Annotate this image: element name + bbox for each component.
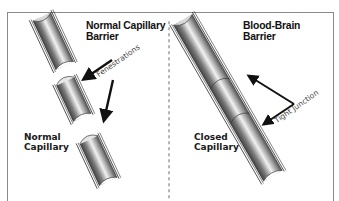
- closed-capillary-label: Closed Capillary: [194, 132, 239, 152]
- bbb-title: Blood-Brain Barrier: [243, 20, 300, 42]
- capillary-segment-3: [75, 131, 121, 189]
- normal-capillary-label-line2: Capillary: [24, 142, 69, 152]
- normal-barrier-title-line2: Barrier: [86, 31, 165, 42]
- diagram-canvas: Normal Capillary Barrier Blood-Brain Bar…: [0, 0, 339, 201]
- normal-capillary-label: Normal Capillary: [24, 132, 69, 152]
- tight-junction-arrow-1: [249, 76, 294, 104]
- capillary-segment-2: [52, 72, 95, 125]
- closed-capillary-label-line2: Capillary: [194, 142, 239, 152]
- fenestration-arrow-2: [104, 80, 113, 120]
- normal-barrier-title: Normal Capillary Barrier: [86, 20, 165, 42]
- normal-capillary-label-line1: Normal: [24, 132, 69, 142]
- bbb-title-line2: Barrier: [243, 31, 300, 42]
- closed-capillary-label-line1: Closed: [194, 132, 239, 142]
- capillary-segment-1: [29, 9, 77, 73]
